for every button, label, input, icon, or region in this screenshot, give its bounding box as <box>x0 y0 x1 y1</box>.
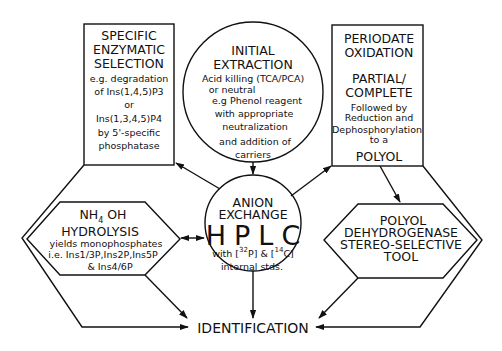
hydrolysis-body-2: i.e. Ins1/3P,Ins2P,Ins5P <box>48 249 158 260</box>
extraction-body-1: Acid killing (TCA/PCA) <box>202 73 304 84</box>
arrow-periodate-to-dehydrogenase <box>380 166 400 202</box>
hplc-big-label: HPLC <box>206 220 308 251</box>
hydrolysis-body-3: & Ins4/6P <box>87 261 132 272</box>
initial-extraction-text: INITIAL EXTRACTION Acid killing (TCA/PCA… <box>202 43 304 160</box>
extraction-body-7: carriers <box>235 149 271 160</box>
periodate-oxidation-text: PERIODATE OXIDATION PARTIAL/ COMPLETE Fo… <box>332 31 422 164</box>
periodate-title-2: OXIDATION <box>345 45 414 60</box>
periodate-body-4: to a <box>370 134 388 145</box>
anion-exchange-hplc-text: ANION EXCHANGE HPLC with [32P] & [14C] i… <box>206 195 308 272</box>
extraction-title-2: EXTRACTION <box>213 57 293 72</box>
enzymatic-body-3: or <box>124 99 134 110</box>
flow-diagram: SPECIFIC ENZYMATIC SELECTION e.g. degrad… <box>0 0 502 351</box>
enzymatic-body-5: by 5'-specific <box>98 127 161 138</box>
enzymatic-title-2: ENZYMATIC <box>93 42 165 57</box>
hydrolysis-title-2: HYDROLYSIS <box>61 224 139 239</box>
extraction-body-3: e.g Phenol reagent <box>212 95 302 106</box>
hplc-body-2: internal stds. <box>221 261 283 272</box>
enzymatic-title-1: SPECIFIC <box>101 28 157 43</box>
enzymatic-body-2: of Ins(1,4,5)P3 <box>94 86 163 97</box>
arrow-dehydrogenase-to-identification <box>319 278 358 318</box>
extraction-body-6: and addition of <box>219 136 291 147</box>
periodate-subtitle-1: PARTIAL/ <box>352 71 407 86</box>
extraction-title-1: INITIAL <box>231 43 275 58</box>
enzymatic-title-3: SELECTION <box>94 56 164 71</box>
extraction-body-2: or neutral <box>209 84 256 95</box>
arrow-hydrolysis-to-identification <box>145 275 187 318</box>
enzymatic-body-1: e.g. degradation <box>90 73 169 84</box>
dehydrogenase-title-4: TOOL <box>383 249 418 264</box>
hplc-isotope-line: with [32P] & [14C] <box>212 246 294 259</box>
arrow-hplc-to-periodate <box>291 166 331 196</box>
enzymatic-selection-text: SPECIFIC ENZYMATIC SELECTION e.g. degrad… <box>90 28 169 151</box>
periodate-title-1: PERIODATE <box>344 31 414 46</box>
identification-label: IDENTIFICATION <box>197 320 309 336</box>
enzymatic-body-4: Ins(1,3,4,5)P4 <box>96 113 162 124</box>
enzymatic-body-6: phosphatase <box>98 140 159 151</box>
hydrolysis-body-1: yields monophosphates <box>50 238 163 249</box>
periodate-subtitle-2: COMPLETE <box>345 85 412 100</box>
extraction-body-4: with appropriate <box>215 108 294 119</box>
periodate-footer: POLYOL <box>356 149 402 164</box>
arrow-hplc-to-enzymatic <box>176 163 220 189</box>
hydrolysis-title-1: NH4 OH <box>79 207 126 225</box>
hydrolysis-text: NH4 OH HYDROLYSIS yields monophosphates … <box>48 207 162 272</box>
periodate-body-2: Reduction and <box>345 112 413 123</box>
extraction-body-5: neutralization <box>222 121 288 132</box>
dehydrogenase-text: POLYOL DEHYDROGENASE STEREO-SELECTIVE TO… <box>340 213 462 264</box>
